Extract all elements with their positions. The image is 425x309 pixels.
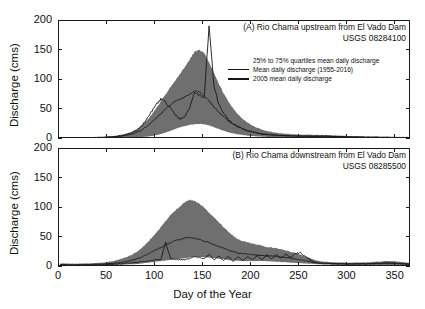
x-tick-mark-bottom (298, 262, 299, 266)
y-tick-mark (58, 138, 62, 139)
x-tick-mark-top (106, 148, 107, 152)
y-tick-label: 50 (18, 102, 52, 114)
x-axis-label: Day of the Year (0, 288, 425, 300)
x-tick-mark-top (154, 20, 155, 24)
x-tick-label: 350 (375, 269, 415, 281)
x-tick-mark-top (106, 20, 107, 24)
panel-a-title-line1: (A) Rio Chama upstream from El Vado Dam (210, 22, 406, 33)
y-tick-mark-right (406, 148, 410, 149)
x-tick-label: 50 (86, 269, 126, 281)
y-tick-mark (58, 49, 62, 50)
x-tick-mark-bottom (202, 262, 203, 266)
x-tick-mark-bottom (250, 134, 251, 138)
y-tick-mark (58, 236, 62, 237)
y-tick-mark (58, 79, 62, 80)
x-tick-label: 150 (182, 269, 222, 281)
y-tick-mark-right (406, 207, 410, 208)
legend-line-icon-mean (228, 66, 249, 74)
x-tick-mark-bottom (394, 134, 395, 138)
x-tick-mark-bottom (346, 262, 347, 266)
y-tick-label: 200 (18, 141, 52, 153)
y-tick-mark (58, 177, 62, 178)
y-tick-mark-right (406, 138, 410, 139)
y-tick-mark-right (406, 49, 410, 50)
panel-b-title: (B) Rio Chama downstream from El Vado Da… (200, 150, 406, 172)
x-tick-mark-top (202, 20, 203, 24)
y-tick-label: 150 (18, 171, 52, 183)
legend-patch-icon (228, 57, 249, 65)
y-tick-label: 200 (18, 13, 52, 25)
y-tick-mark (58, 266, 62, 267)
y-tick-label: 50 (18, 230, 52, 242)
legend-label-2005: 2005 mean daily discharge (253, 74, 332, 83)
y-tick-mark-right (406, 108, 410, 109)
x-tick-mark-bottom (298, 134, 299, 138)
y-tick-mark (58, 20, 62, 21)
x-tick-mark-bottom (154, 262, 155, 266)
x-tick-label: 300 (327, 269, 367, 281)
legend-item-quartiles: 25% to 75% quartiles mean daily discharg… (228, 56, 379, 65)
quartile-band (60, 199, 410, 265)
x-tick-mark-bottom (58, 134, 59, 138)
y-tick-mark-right (406, 79, 410, 80)
x-tick-mark-bottom (58, 262, 59, 266)
y-tick-label: 150 (18, 43, 52, 55)
y-tick-mark-right (406, 177, 410, 178)
panel-b-title-line2: USGS 08285500 (200, 161, 406, 172)
x-tick-label: 200 (230, 269, 270, 281)
x-tick-mark-bottom (202, 134, 203, 138)
x-tick-label: 250 (278, 269, 318, 281)
legend-label-mean: Mean daily discharge (1955-2016) (253, 65, 353, 74)
y-tick-label: 100 (18, 72, 52, 84)
x-tick-mark-top (58, 20, 59, 24)
legend-line-icon-2005 (228, 75, 249, 83)
figure-container: Discharge (cms) 050100150200 (A) Rio Cha… (0, 0, 425, 309)
x-tick-label: 0 (38, 269, 78, 281)
legend-item-mean: Mean daily discharge (1955-2016) (228, 65, 379, 74)
legend-item-2005: 2005 mean daily discharge (228, 74, 379, 83)
x-tick-mark-bottom (346, 134, 347, 138)
x-tick-mark-bottom (154, 134, 155, 138)
panel-b-y-axis-label: Discharge (cms) (8, 171, 20, 255)
y-tick-mark (58, 148, 62, 149)
x-tick-mark-bottom (394, 262, 395, 266)
x-tick-mark-bottom (250, 262, 251, 266)
legend-label-quartiles: 25% to 75% quartiles mean daily discharg… (253, 56, 379, 65)
y-tick-mark-right (406, 20, 410, 21)
x-tick-mark-top (154, 148, 155, 152)
legend: 25% to 75% quartiles mean daily discharg… (228, 56, 379, 84)
panel-b-title-line1: (B) Rio Chama downstream from El Vado Da… (200, 150, 406, 161)
panel-a-y-axis-label: Discharge (cms) (8, 43, 20, 127)
x-tick-mark-bottom (106, 262, 107, 266)
y-tick-label: 100 (18, 200, 52, 212)
x-tick-label: 100 (134, 269, 174, 281)
y-tick-mark (58, 207, 62, 208)
y-tick-mark-right (406, 266, 410, 267)
x-tick-mark-bottom (106, 134, 107, 138)
y-tick-mark-right (406, 236, 410, 237)
panel-a-title-line2: USGS 08284100 (210, 33, 406, 44)
x-tick-mark-top (58, 148, 59, 152)
panel-a-title: (A) Rio Chama upstream from El Vado Dam … (210, 22, 406, 44)
y-tick-mark (58, 108, 62, 109)
